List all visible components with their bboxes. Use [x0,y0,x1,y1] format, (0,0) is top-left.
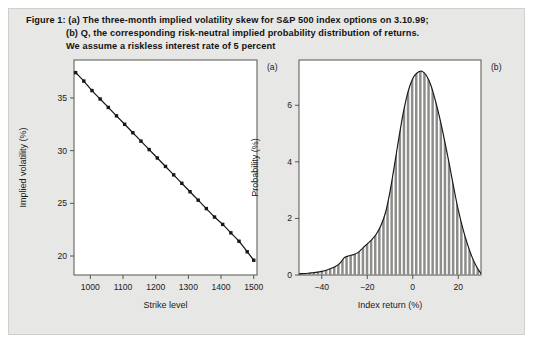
hatch-band [423,60,426,275]
x-tick-label-b: −20 [360,282,375,292]
chart-risk-neutral-probability-distribution: 0246 −40−20020 Probability (%) Index ret… [250,60,502,310]
hatch-band [419,60,422,275]
panel-tag-a: (a) [267,62,278,72]
y-tick-label-b: 2 [287,213,292,223]
x-tick-label-a: 1000 [81,282,100,292]
y-tick-label-a: 20 [57,251,67,261]
data-point-marker [147,148,150,151]
panel-tag-b: (b) [491,62,502,72]
y-axis-ticks-a: 20253035 [57,93,74,261]
hatch-band [427,60,430,275]
x-axis-ticks-b: −40−20020 [314,275,463,292]
data-point-marker [90,89,93,92]
x-axis-label-b: Index return (%) [358,300,423,310]
data-point-marker [82,79,85,82]
x-tick-label-b: −40 [314,282,329,292]
x-tick-label-b: 20 [453,282,463,292]
y-tick-label-a: 30 [57,146,67,156]
x-tick-label-a: 1100 [114,282,133,292]
y-axis-ticks-b: 0246 [287,100,299,280]
data-point-marker [123,123,126,126]
x-axis-label-a: Strike level [143,300,187,310]
data-point-marker [131,131,134,134]
y-axis-label-a: Implied volatility (%) [18,127,28,207]
data-point-marker [205,207,208,210]
figure-root: Figure 1: (a) The three-month implied vo… [0,0,533,343]
data-point-marker [213,215,216,218]
hatch-band [415,60,418,275]
data-point-marker [107,106,110,109]
data-point-marker [221,223,224,226]
data-point-marker [229,231,232,234]
data-point-marker [180,182,183,185]
data-point-marker [188,190,191,193]
data-point-marker [196,198,199,201]
hatch-band [411,60,414,275]
charts-svg: 20253035 100011001200130014001500 Implie… [0,0,517,327]
chart-implied-volatility-skew: 20253035 100011001200130014001500 Implie… [18,60,278,310]
x-tick-label-a: 1400 [211,282,230,292]
y-tick-label-b: 4 [287,157,292,167]
data-point-marker [237,240,240,243]
data-point-marker [98,97,101,100]
x-tick-label-b: 0 [410,282,415,292]
x-tick-label-a: 1200 [146,282,165,292]
charts-container: 20253035 100011001200130014001500 Implie… [0,0,517,327]
data-point-marker [115,114,118,117]
y-axis-label-b: Probability (%) [250,138,260,197]
x-tick-label-a: 1300 [179,282,198,292]
y-tick-label-a: 25 [57,198,67,208]
data-point-marker [252,259,255,262]
data-point-marker [74,71,77,74]
data-point-marker [245,250,248,253]
data-point-marker [139,139,142,142]
x-tick-label-a: 1500 [244,282,263,292]
x-axis-ticks-a: 100011001200130014001500 [81,275,264,292]
y-tick-label-b: 6 [287,100,292,110]
y-tick-label-a: 35 [57,93,67,103]
y-tick-label-b: 0 [287,270,292,280]
data-point-marker [164,165,167,168]
data-point-marker [172,173,175,176]
data-point-marker [156,156,159,159]
